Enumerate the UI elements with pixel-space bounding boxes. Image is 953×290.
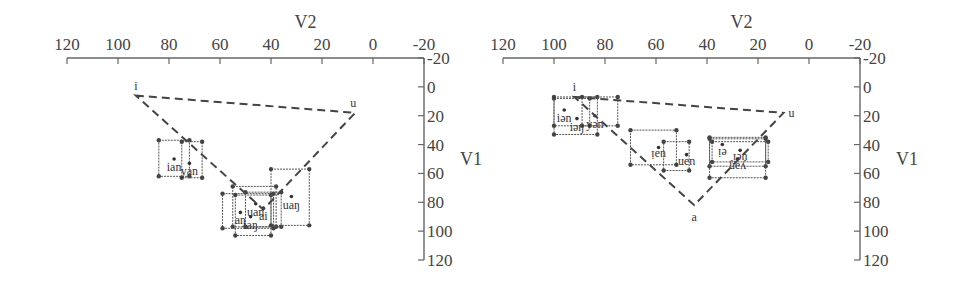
x-tick-label: 0 — [805, 35, 814, 54]
x-tick-label: 120 — [54, 35, 80, 54]
vowel-label: ei — [717, 146, 726, 160]
corner-marker — [766, 160, 770, 164]
y-tick-label: 40 — [863, 136, 880, 155]
corner-marker — [233, 193, 237, 197]
corner-marker — [707, 137, 711, 141]
x-axis-title: V2 — [295, 12, 317, 32]
vowel-label: uaŋ — [283, 198, 300, 212]
corner-vowel-label: u — [350, 96, 356, 110]
vowel-box: yəŋ — [707, 137, 768, 180]
corner-marker — [661, 168, 665, 172]
corner-marker — [552, 132, 556, 136]
corner-marker — [687, 139, 691, 143]
corner-marker — [269, 233, 273, 237]
corner-vowel-label: i — [134, 79, 138, 93]
corner-marker — [307, 223, 311, 227]
y-tick-label: 80 — [427, 193, 444, 212]
corner-marker — [674, 128, 678, 132]
corner-marker — [180, 139, 184, 143]
x-tick-label: 20 — [750, 35, 767, 54]
x-axis-title: V2 — [731, 12, 753, 32]
vowel-label: ian — [167, 160, 182, 174]
x-tick-label: 80 — [597, 35, 614, 54]
x-tick-label: 120 — [490, 35, 516, 54]
x-tick-label: 0 — [369, 35, 378, 54]
y-tick-label: 0 — [863, 78, 872, 97]
corner-marker — [243, 225, 247, 229]
vowel-label: yəŋ — [729, 160, 746, 174]
corner-marker — [233, 233, 237, 237]
corner-marker — [661, 139, 665, 143]
vowel-triangle — [574, 97, 783, 205]
y-tick-label: 40 — [427, 136, 444, 155]
y-tick-label: 80 — [863, 193, 880, 212]
x-tick-label: 100 — [541, 35, 567, 54]
corner-marker — [707, 176, 711, 180]
y-axis-title: V1 — [896, 149, 918, 169]
y-tick-label: 60 — [863, 164, 880, 183]
y-tick-label: 60 — [427, 164, 444, 183]
corner-marker — [595, 132, 599, 136]
formant-plot-1: 120100806040200-20-20020406080100120V2V1… — [54, 12, 482, 270]
vowel-label: yan — [181, 164, 198, 178]
corner-marker — [274, 184, 278, 188]
vowel-label: ai — [259, 209, 268, 223]
corner-marker — [269, 223, 273, 227]
corner-marker — [157, 174, 161, 178]
x-tick-label: 100 — [105, 35, 131, 54]
corner-marker — [580, 124, 584, 128]
y-tick-label: 120 — [427, 251, 453, 270]
y-axis-title: V1 — [460, 149, 482, 169]
corner-marker — [200, 139, 204, 143]
vowel-box: uaŋ — [269, 167, 312, 228]
corner-vowel-label: i — [573, 80, 577, 94]
corner-marker — [231, 184, 235, 188]
corner-marker — [763, 176, 767, 180]
y-tick-label: -20 — [427, 49, 450, 68]
corner-marker — [552, 124, 556, 128]
corner-marker — [552, 96, 556, 100]
vowel-chart-figure: 120100806040200-20-20020406080100120V2V1… — [0, 0, 953, 290]
corner-marker — [220, 191, 224, 195]
x-tick-label: 20 — [314, 35, 331, 54]
y-tick-label: 120 — [863, 251, 889, 270]
x-tick-label: 80 — [161, 35, 178, 54]
corner-marker — [157, 138, 161, 142]
corner-marker — [269, 167, 273, 171]
vowel-label: uən — [678, 156, 695, 170]
y-tick-label: -20 — [863, 49, 886, 68]
x-tick-label: 40 — [263, 35, 280, 54]
y-tick-label: 100 — [427, 222, 453, 241]
corner-vowel-label: a — [692, 210, 698, 224]
corner-vowel-label: u — [789, 106, 795, 120]
corner-marker — [616, 124, 620, 128]
y-tick-label: 20 — [863, 107, 880, 126]
y-tick-label: 0 — [427, 78, 436, 97]
corner-marker — [628, 163, 632, 167]
corner-marker — [220, 226, 224, 230]
corner-marker — [710, 160, 714, 164]
x-tick-label: 40 — [699, 35, 716, 54]
x-tick-label: 60 — [648, 35, 665, 54]
corner-marker — [307, 167, 311, 171]
vowel-box: uəi — [628, 128, 678, 167]
x-tick-label: 60 — [212, 35, 229, 54]
y-tick-label: 20 — [427, 107, 444, 126]
corner-marker — [763, 137, 767, 141]
corner-marker — [200, 176, 204, 180]
vowel-triangle — [136, 96, 355, 210]
corner-marker — [616, 95, 620, 99]
y-tick-label: 100 — [863, 222, 889, 241]
vowel-label: yən — [586, 117, 603, 131]
formant-plot-2: 120100806040200-20-20020406080100120V2V1… — [490, 12, 918, 270]
corner-marker — [628, 128, 632, 132]
